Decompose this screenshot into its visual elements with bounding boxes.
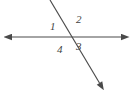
geometry-figure: 1 2 3 4: [0, 0, 131, 101]
angle-label-1: 1: [50, 21, 56, 32]
angle-label-2: 2: [76, 14, 82, 25]
angle-label-4: 4: [57, 44, 63, 55]
geometry-canvas: [0, 0, 131, 101]
diagonal-line: [50, 0, 100, 83]
angle-label-3: 3: [76, 41, 82, 52]
